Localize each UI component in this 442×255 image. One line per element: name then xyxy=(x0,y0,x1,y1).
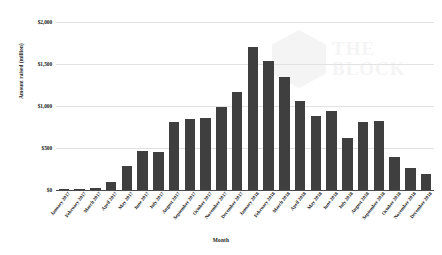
bar xyxy=(311,116,321,190)
bar-series xyxy=(56,22,434,190)
y-axis-tick-label: $0 xyxy=(47,187,52,193)
bar xyxy=(279,77,289,190)
x-axis-tick-text: May 2017 xyxy=(117,191,134,210)
bar xyxy=(295,101,305,190)
bar xyxy=(326,111,336,190)
y-axis-tick-label: $1,000 xyxy=(38,103,52,109)
bar xyxy=(74,189,84,190)
bar xyxy=(59,189,69,190)
bar xyxy=(153,152,163,190)
bar xyxy=(137,151,147,190)
x-axis-tick-text: June 2018 xyxy=(322,191,339,211)
x-axis-tick-label: May 2018 xyxy=(306,191,323,210)
x-axis-tick-label: April 2018 xyxy=(289,191,307,212)
bar xyxy=(248,47,258,190)
x-axis-tick-label: May 2017 xyxy=(117,191,134,210)
y-axis-tick-label: $500 xyxy=(42,145,52,151)
x-axis-tick-label: June 2017 xyxy=(133,191,150,211)
x-axis-title: Month xyxy=(0,237,442,243)
bar xyxy=(405,168,415,190)
x-axis-tick-labels: January 2017February 2017March 2017April… xyxy=(56,191,434,237)
y-axis-tick-label: $2,000 xyxy=(38,19,52,25)
x-axis-tick-text: April 2017 xyxy=(100,191,118,212)
bar xyxy=(122,166,132,190)
bar xyxy=(169,122,179,190)
x-axis-tick-text: May 2018 xyxy=(306,191,323,210)
bar xyxy=(263,61,273,190)
x-axis-tick-text: June 2017 xyxy=(133,191,150,211)
bar xyxy=(421,174,431,190)
bar-chart: THE BLOCK Amount raised (million) $2,000… xyxy=(0,0,442,255)
x-axis-tick-label: June 2018 xyxy=(322,191,339,211)
bar xyxy=(374,121,384,190)
bar xyxy=(342,138,352,190)
bar xyxy=(90,188,100,190)
bar xyxy=(389,157,399,190)
bar xyxy=(216,107,226,190)
plot-area: $2,000$1,500$1,000$500$0 xyxy=(56,22,434,190)
bar xyxy=(106,182,116,190)
bar xyxy=(200,118,210,190)
y-axis-title: Amount raised (million) xyxy=(18,6,24,136)
bar xyxy=(232,92,242,190)
x-axis-tick-text: April 2018 xyxy=(289,191,307,212)
bar xyxy=(185,119,195,190)
bar xyxy=(358,122,368,190)
x-axis-tick-label: April 2017 xyxy=(100,191,118,212)
y-axis-tick-label: $1,500 xyxy=(38,61,52,67)
